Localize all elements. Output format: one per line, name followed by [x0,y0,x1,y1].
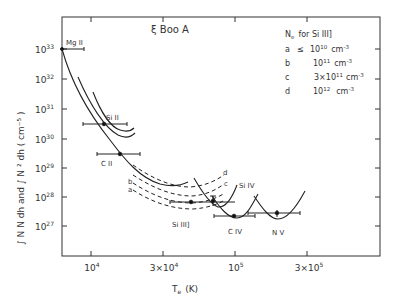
svg-text:Nefor Si III]: Nefor Si III] [285,30,332,40]
svg-text:3×1011cm-3: 3×1011cm-3 [314,72,364,82]
svg-text:b: b [285,59,290,68]
svg-text:1030: 1030 [35,133,54,145]
label-curve-d: d [223,169,227,177]
curve-si3-a [133,190,225,209]
label-curve-c: c [224,180,228,188]
y-tick-labels: 1033 1032 1031 1030 1029 1028 1027 [35,43,54,232]
chart-title: ξ Boo A [151,24,189,35]
svg-text:a: a [285,45,290,54]
emission-measure-chart: 1033 1032 1031 1030 1029 1028 1027 104 3… [0,0,394,301]
data-points [61,47,301,218]
svg-text:1029: 1029 [35,162,54,174]
svg-text:≤: ≤ [297,45,304,54]
label-c4: C IV [228,228,242,236]
svg-text:3×104: 3×104 [150,261,179,273]
y-axis-label: ∫ N N dh and ∫ N ² dh ( cm⁻⁵ ) [16,111,26,245]
svg-text:105: 105 [228,261,243,273]
svg-text:1031: 1031 [35,103,54,115]
svg-text:3×105: 3×105 [295,261,324,273]
curve-n5 [254,191,305,219]
svg-text:c: c [285,73,289,82]
label-c2: C II [101,160,112,168]
svg-text:1033: 1033 [35,43,54,55]
label-curve-a: a [128,186,132,194]
x-tick-labels: 104 3×104 105 3×105 [84,261,323,273]
x-axis-label: Te(K) [171,284,198,295]
svg-text:1011cm-3: 1011cm-3 [313,58,352,68]
svg-text:1028: 1028 [35,191,54,203]
label-n5: N V [272,229,284,237]
curve-si3-d [133,165,224,187]
loci-curves [62,49,305,219]
curve-mg2-c2 [62,49,188,185]
svg-text:1010cm-3: 1010cm-3 [310,44,349,54]
label-curve-b: b [128,178,133,186]
label-si2: Si II [106,114,119,122]
label-si3: Si III] [172,221,190,229]
svg-text:104: 104 [84,261,99,273]
svg-text:1027: 1027 [35,220,54,232]
legend: Nefor Si III] a ≤ 1010cm-3 b 1011cm-3 c … [285,30,364,96]
label-mg2: Mg II [66,39,83,47]
curve-si4 [194,178,237,207]
svg-text:1012cm-3: 1012cm-3 [313,86,354,96]
svg-text:1032: 1032 [35,73,54,85]
label-si4: Si IV [239,182,255,190]
svg-text:d: d [285,87,290,96]
